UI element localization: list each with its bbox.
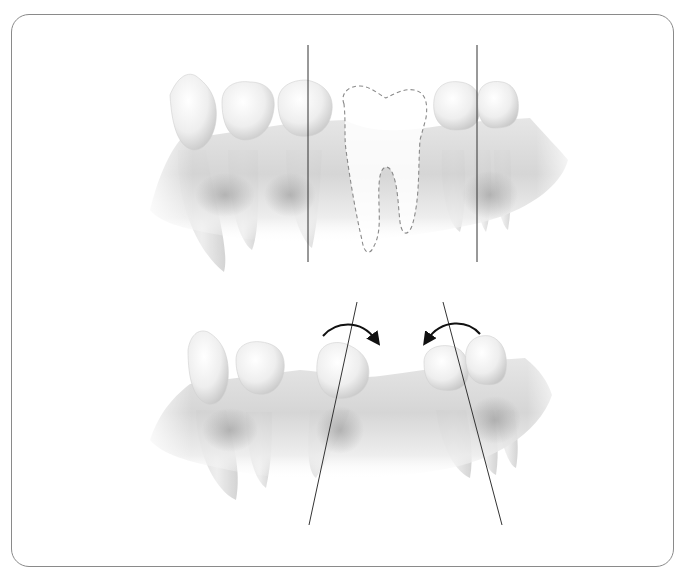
top-panel bbox=[140, 45, 580, 280]
molar-crown bbox=[478, 82, 519, 128]
curved-arrow-left-icon bbox=[427, 323, 480, 340]
molar-crown bbox=[466, 336, 507, 385]
molar-crown bbox=[434, 82, 481, 130]
bottom-panel bbox=[140, 302, 570, 525]
dental-drift-figure bbox=[0, 0, 686, 579]
illustration-canvas bbox=[0, 0, 686, 579]
tipped-molar-crown bbox=[424, 346, 468, 391]
premolar-crown bbox=[278, 80, 332, 136]
